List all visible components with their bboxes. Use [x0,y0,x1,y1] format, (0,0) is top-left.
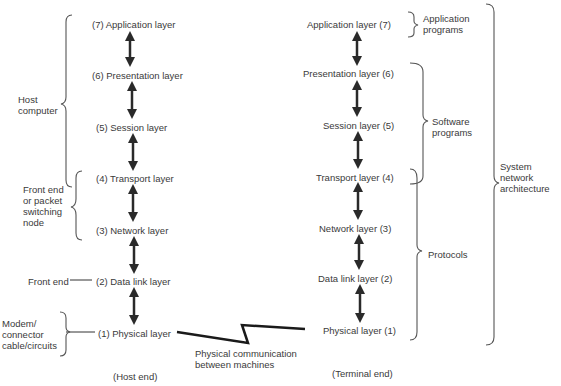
terminal-arrows [357,36,360,318]
diagram-graphics [0,0,561,386]
host-computer-brace [61,15,72,187]
application-programs-brace [408,12,418,37]
system-network-architecture-brace [486,4,499,345]
front-end-node-brace [71,171,82,240]
physical-link-zigzag [177,325,305,343]
host-arrows [130,36,134,320]
terminal-braces [408,4,499,345]
protocols-brace [410,169,422,340]
software-programs-brace [410,63,428,184]
host-braces [60,15,82,356]
modem-brace [60,312,70,356]
